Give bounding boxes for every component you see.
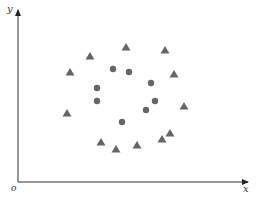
triangle-marker <box>170 70 179 78</box>
circle-marker <box>119 119 125 125</box>
data-points <box>63 43 189 153</box>
circle-marker <box>94 85 100 91</box>
circle-marker <box>94 98 100 104</box>
triangle-marker <box>161 46 170 54</box>
triangle-marker <box>122 43 131 51</box>
circle-marker <box>152 98 158 104</box>
triangle-marker <box>166 129 175 137</box>
triangle-marker <box>158 135 167 143</box>
x-axis-label: x <box>243 183 249 194</box>
triangle-marker <box>86 52 95 60</box>
y-axis-label: y <box>7 3 13 14</box>
circle-marker <box>110 66 116 72</box>
triangle-marker <box>66 68 75 76</box>
circle-marker <box>143 107 149 113</box>
triangle-marker <box>180 102 189 110</box>
triangle-marker <box>133 141 142 149</box>
circle-marker <box>126 69 132 75</box>
origin-label: o <box>11 183 16 193</box>
triangle-marker <box>97 138 106 146</box>
triangle-marker <box>112 145 121 153</box>
scatter-plot <box>0 0 259 202</box>
circle-marker <box>148 80 154 86</box>
triangle-marker <box>63 109 72 117</box>
